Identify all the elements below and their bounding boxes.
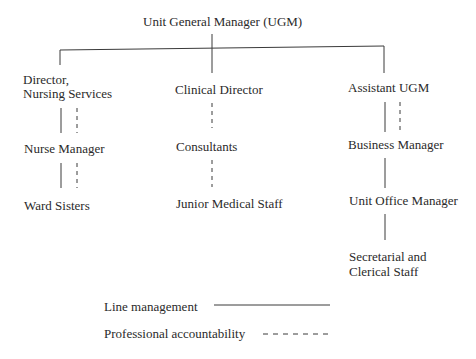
ward-sisters-label: Ward Sisters: [24, 198, 90, 213]
org-chart-connectors: [0, 0, 476, 359]
unit-office-manager-label: Unit Office Manager: [349, 193, 458, 208]
secretarial-label-2: Clerical Staff: [349, 264, 418, 279]
ugm-label: Unit General Manager (UGM): [143, 14, 302, 29]
business-manager-label: Business Manager: [348, 137, 444, 152]
junior-medical-staff-label: Junior Medical Staff: [176, 196, 283, 211]
nurse-manager-label: Nurse Manager: [24, 141, 105, 156]
legend-line-management: Line management: [104, 299, 198, 314]
director-nursing-label-2: Nursing Services: [23, 86, 112, 101]
consultants-label: Consultants: [176, 139, 237, 154]
clinical-director-label: Clinical Director: [175, 82, 263, 97]
secretarial-label-1: Secretarial and: [349, 249, 427, 264]
assistant-ugm-label: Assistant UGM: [348, 80, 429, 95]
top-horizontal-line: [60, 46, 384, 50]
legend-professional-accountability: Professional accountability: [104, 326, 245, 341]
director-nursing-label-1: Director,: [23, 72, 69, 87]
